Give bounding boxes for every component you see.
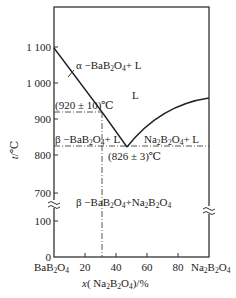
svg-text:20: 20 (80, 261, 92, 273)
y-axis-title: t/℃ (8, 141, 20, 159)
phase-diagram: 1 100 1 000 900 800 700 100 0 t/℃ 20 40 … (0, 0, 236, 298)
peritectic-temperature: (920 ± 10)℃ (55, 99, 114, 112)
x-axis-title: x( Na2B2O4)/% (81, 277, 149, 291)
svg-text:700: 700 (35, 187, 52, 199)
svg-text:60: 60 (142, 261, 154, 273)
axis-break-right-icon (203, 206, 215, 215)
region-beta-liquid: β −BaB2O4+ L (55, 133, 121, 147)
region-liquid: L (132, 89, 139, 101)
svg-text:100: 100 (35, 215, 52, 227)
svg-text:1 000: 1 000 (26, 77, 51, 89)
x-tick-labels: 20 40 60 80 (80, 261, 185, 273)
svg-text:80: 80 (173, 261, 185, 273)
x-left-endmember: BaB2O4 (34, 261, 69, 275)
svg-text:900: 900 (35, 113, 52, 125)
axis-break-left-icon (48, 200, 60, 209)
region-alpha-liquid: α −BaB2O4+ L (76, 59, 142, 73)
eutectic-temperature: (826 ± 3)℃ (108, 150, 161, 163)
svg-text:800: 800 (35, 149, 52, 161)
y-tick-labels: 1 100 1 000 900 800 700 100 0 (26, 41, 51, 263)
svg-text:1 100: 1 100 (26, 41, 51, 53)
plot-frame (54, 7, 209, 257)
region-solid: β −BaB2O4+Na2B2O4 (76, 196, 171, 210)
svg-text:40: 40 (111, 261, 123, 273)
x-right-endmember: Na2B2O4 (191, 261, 231, 275)
region-na-liquid: Na2B2O4+ L (144, 133, 199, 147)
